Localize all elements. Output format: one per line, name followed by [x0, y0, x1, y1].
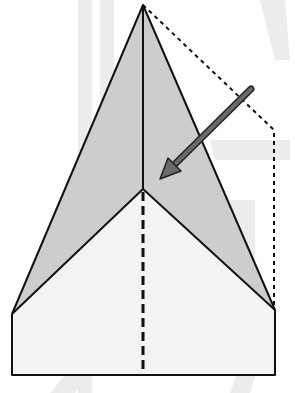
- folding-diagram: [0, 0, 295, 393]
